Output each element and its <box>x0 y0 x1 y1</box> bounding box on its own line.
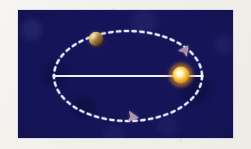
major-axis-left-vertex <box>52 74 55 77</box>
planet-body <box>84 27 108 51</box>
sky-panel <box>18 10 233 138</box>
sun-body <box>164 58 198 92</box>
orbit-figure: Elliptical planetary orbit diagram Sun P… <box>0 0 251 149</box>
major-axis-right-vertex <box>200 74 203 77</box>
orbit-diagram-svg <box>18 10 233 138</box>
sun-hotspot <box>176 70 182 76</box>
planet-highlight <box>91 34 96 39</box>
